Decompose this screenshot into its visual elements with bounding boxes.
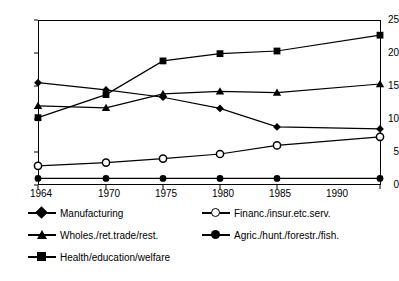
- legend-label-agriculture: Agric./hunt./forestr./fish.: [230, 230, 339, 241]
- data-point-0-0: [34, 79, 42, 87]
- legend-row-3: Health/education/welfare: [28, 246, 388, 268]
- data-point-3-0: [35, 175, 42, 182]
- legend-label-manufacturing: Manufacturing: [56, 208, 123, 219]
- series-line-0: [38, 83, 380, 129]
- x-tick-label-1980: 1980: [201, 189, 245, 199]
- legend-row-2: Wholes./ret.trade/rest. Agric./hunt./for…: [28, 224, 388, 246]
- data-point-3-3: [217, 175, 224, 182]
- legend-label-wholesale: Wholes./ret.trade/rest.: [56, 230, 158, 241]
- data-point-0-4: [273, 123, 281, 131]
- legend-item-finance: Financ./insur.etc.serv.: [202, 202, 331, 224]
- series-line-1: [38, 137, 380, 166]
- legend-label-health: Health/education/welfare: [56, 252, 170, 263]
- x-tick-label-1970: 1970: [87, 189, 131, 199]
- data-point-1-1: [102, 159, 109, 166]
- legend-label-finance: Financ./insur.etc.serv.: [230, 208, 331, 219]
- diamond-marker-icon: [28, 206, 56, 220]
- legend-item-health: Health/education/welfare: [28, 246, 170, 268]
- series-line-4: [38, 35, 380, 118]
- legend-item-wholesale: Wholes./ret.trade/rest.: [28, 224, 158, 246]
- legend-row-1: Manufacturing Financ./insur.etc.serv.: [28, 202, 388, 224]
- square-marker-icon: [28, 250, 56, 264]
- data-point-2-5: [376, 80, 384, 87]
- legend-item-agriculture: Agric./hunt./forestr./fish.: [202, 224, 339, 246]
- data-point-4-3: [217, 50, 224, 57]
- triangle-marker-icon: [28, 228, 56, 242]
- chart-figure: 25 20 15 10 5 0 1964 1970 1975 1980 1985…: [0, 0, 399, 281]
- data-point-3-1: [103, 175, 110, 182]
- data-point-4-2: [160, 58, 167, 65]
- data-point-3-4: [274, 175, 281, 182]
- circle-filled-marker-icon: [202, 228, 230, 242]
- x-tick-label-1990: 1990: [315, 189, 359, 199]
- data-point-1-3: [216, 150, 223, 157]
- data-point-4-5: [377, 32, 384, 39]
- data-point-0-5: [376, 125, 384, 133]
- data-point-1-2: [159, 155, 166, 162]
- data-point-1-0: [34, 162, 41, 169]
- data-point-3-5: [377, 175, 384, 182]
- data-point-4-4: [274, 48, 281, 55]
- data-point-4-0: [35, 114, 42, 121]
- circle-open-marker-icon: [202, 206, 230, 220]
- data-point-1-4: [273, 142, 280, 149]
- data-point-4-1: [103, 91, 110, 98]
- x-tick-label-1985: 1985: [258, 189, 302, 199]
- y-axis-ticks: [34, 20, 38, 185]
- chart-legend: Manufacturing Financ./insur.etc.serv. Wh…: [28, 202, 388, 268]
- legend-item-manufacturing: Manufacturing: [28, 202, 123, 224]
- x-tick-label-1975: 1975: [144, 189, 188, 199]
- x-tick-label-1964: 1964: [19, 189, 63, 199]
- data-point-0-3: [216, 105, 224, 113]
- data-point-3-2: [160, 175, 167, 182]
- data-point-1-5: [376, 133, 383, 140]
- data-series-layer: [34, 32, 384, 182]
